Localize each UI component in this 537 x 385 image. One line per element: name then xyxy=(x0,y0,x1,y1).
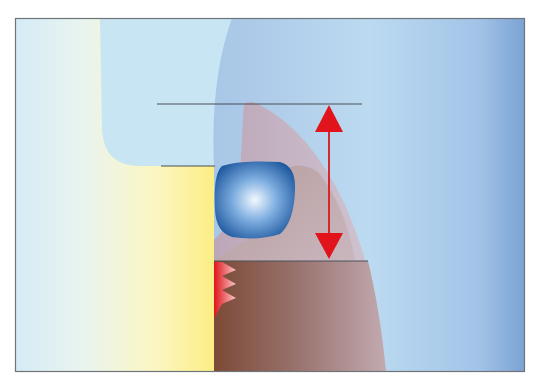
blue-blob xyxy=(215,162,295,239)
light-blue-region xyxy=(100,18,232,166)
dental-cross-section-diagram xyxy=(0,0,537,385)
diagram-canvas xyxy=(0,0,537,385)
brown-lower-region xyxy=(214,261,386,372)
